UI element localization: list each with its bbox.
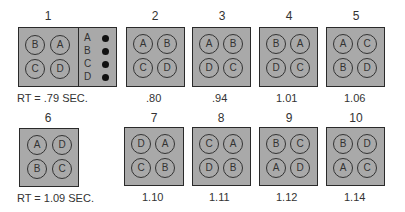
circle-7-tl: D (131, 134, 151, 154)
legend-item-b: B (84, 45, 114, 57)
circle-1-br: D (50, 59, 70, 79)
panel-9-box: B C A D (259, 127, 318, 186)
panel-9-number: 9 (259, 111, 319, 125)
circle-2-bl: C (133, 58, 153, 78)
circle-7-bl: C (131, 158, 151, 178)
circle-3-br: C (223, 58, 243, 78)
circle-5-tl: A (333, 34, 353, 54)
filled-dot-icon (102, 74, 109, 81)
circle-10-bl: A (333, 158, 353, 178)
panel-7-box: D A C B (124, 127, 184, 186)
circle-4-tr: A (290, 34, 310, 54)
circle-9-bl: A (266, 158, 286, 178)
circle-1-tr: A (50, 35, 70, 55)
legend-item-d: D (84, 71, 114, 83)
legend-item-c: C (84, 58, 114, 70)
circle-8-br: B (223, 158, 243, 178)
panel-6-number: 6 (18, 111, 78, 125)
circle-4-br: C (290, 58, 310, 78)
circle-9-tr: C (290, 134, 310, 154)
panel-1-box: B A C D (18, 27, 79, 87)
circle-2-tl: A (133, 34, 153, 54)
circle-7-tr: A (155, 134, 175, 154)
circle-2-tr: B (157, 34, 177, 54)
panel-7-number: 7 (124, 111, 184, 125)
circle-1-bl: C (25, 59, 45, 79)
circle-9-br: D (290, 158, 310, 178)
panel-8-box: C A D B (192, 127, 251, 186)
circle-6-br: C (52, 159, 72, 179)
legend-panel: A B C D (78, 27, 117, 87)
panel-2-box: A B C D (126, 27, 185, 87)
circle-10-tl: B (333, 134, 353, 154)
circle-6-tr: D (52, 135, 72, 155)
panel-2-number: 2 (125, 9, 185, 23)
panel-4-box: B A D C (259, 27, 318, 87)
circle-3-tr: B (223, 34, 243, 54)
circle-2-br: D (157, 58, 177, 78)
circle-3-tl: A (199, 34, 219, 54)
filled-dot-icon (102, 61, 109, 68)
panel-10-number: 10 (326, 111, 386, 125)
circle-5-bl: B (333, 58, 353, 78)
circle-5-br: D (357, 58, 377, 78)
panel-4-number: 4 (259, 9, 319, 23)
panel-10-caption: 1.14 (344, 191, 365, 203)
panel-2-caption: .80 (146, 92, 161, 104)
panel-8-caption: 1.11 (209, 191, 230, 203)
circle-8-tl: C (199, 134, 219, 154)
panel-6-box: A D B C (19, 128, 79, 187)
circle-5-tr: C (357, 34, 377, 54)
panel-8-number: 8 (191, 111, 251, 125)
panel-3-box: A B D C (192, 27, 251, 87)
circle-6-bl: B (27, 159, 47, 179)
circle-10-tr: D (357, 134, 377, 154)
panel-5-number: 5 (326, 9, 386, 23)
circle-8-tr: A (223, 134, 243, 154)
circle-10-br: C (357, 158, 377, 178)
filled-dot-icon (102, 35, 109, 42)
panel-3-number: 3 (192, 9, 252, 23)
circle-4-bl: D (266, 58, 286, 78)
panel-4-caption: 1.01 (276, 92, 297, 104)
panel-5-box: A C B D (326, 27, 385, 87)
circle-6-tl: A (27, 135, 47, 155)
panel-6-caption: RT = 1.09 SEC. (17, 192, 94, 204)
panel-7-caption: 1.10 (142, 191, 163, 203)
panel-9-caption: 1.12 (276, 191, 297, 203)
circle-3-bl: D (199, 58, 219, 78)
circle-4-tl: B (266, 34, 286, 54)
circle-1-tl: B (25, 35, 45, 55)
panel-5-caption: 1.06 (344, 92, 365, 104)
panel-10-box: B D A C (326, 127, 385, 186)
circle-8-bl: D (199, 158, 219, 178)
circle-7-br: B (155, 158, 175, 178)
filled-dot-icon (102, 48, 109, 55)
panel-1-number: 1 (18, 9, 78, 23)
legend-item-a: A (84, 32, 114, 44)
panel-1-caption: RT = .79 SEC. (17, 92, 88, 104)
circle-9-tl: B (266, 134, 286, 154)
panel-3-caption: .94 (212, 92, 227, 104)
